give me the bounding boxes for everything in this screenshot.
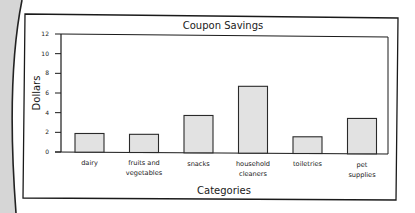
bar: [75, 133, 104, 152]
chart-frame: [23, 14, 398, 200]
y-tick-label: 6: [45, 89, 49, 96]
chart-figure: Coupon Savings 024681012 dairyfruits and…: [0, 0, 415, 213]
y-tick-label: 10: [41, 50, 49, 57]
y-tick-label: 0: [45, 148, 49, 155]
y-tick-label: 4: [45, 109, 49, 116]
x-tick-label: snacks: [187, 160, 210, 168]
y-tick-label: 2: [45, 128, 49, 135]
x-tick-label: vegetables: [126, 169, 163, 177]
bar: [239, 86, 268, 153]
x-tick-label: cleaners: [239, 170, 268, 178]
y-tick-label: 12: [41, 30, 49, 37]
page-edge-strip: [0, 0, 22, 213]
x-tick-label: toiletries: [293, 160, 323, 168]
x-tick-label: fruits and: [128, 159, 160, 167]
chart-title: Coupon Savings: [183, 20, 264, 31]
y-tick-label: 8: [45, 69, 49, 76]
bar: [293, 137, 322, 154]
x-tick-label: pet: [357, 161, 368, 169]
x-axis-title: Categories: [197, 185, 251, 196]
bar: [184, 115, 213, 152]
x-tick-label: household: [236, 160, 270, 168]
y-axis-title: Dollars: [31, 76, 42, 111]
x-tick-label: dairy: [81, 159, 98, 167]
bar: [348, 118, 377, 153]
x-tick-label: supplies: [348, 171, 376, 179]
bar: [130, 134, 159, 152]
